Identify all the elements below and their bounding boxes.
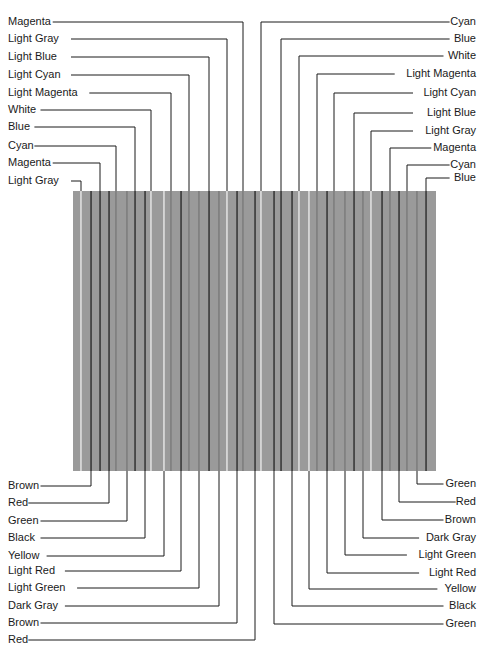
- stripe: [370, 191, 371, 471]
- stripe: [326, 191, 328, 471]
- stripe: [108, 191, 110, 471]
- stripe: [218, 191, 219, 471]
- stripe: [308, 191, 309, 471]
- stripe: [126, 191, 127, 471]
- label-cyan: Cyan: [8, 139, 34, 152]
- label-cyan: Cyan: [450, 158, 476, 171]
- leader-line: [382, 471, 444, 520]
- stripe: [180, 191, 182, 471]
- stripe: [134, 191, 136, 471]
- stripe: [260, 191, 261, 471]
- stripe: [90, 191, 92, 471]
- leader-line: [309, 471, 437, 589]
- stripe: [425, 191, 427, 471]
- leader-line: [334, 93, 413, 191]
- leader-line: [345, 471, 407, 555]
- leader-line: [417, 471, 444, 484]
- leader-line: [426, 178, 450, 191]
- label-green: Green: [445, 477, 476, 490]
- label-magenta: Magenta: [8, 156, 51, 169]
- label-red: Red: [8, 496, 28, 509]
- stripe: [144, 191, 146, 471]
- label-light-gray: Light Gray: [8, 32, 59, 45]
- leader-line: [47, 471, 164, 556]
- leader-line: [390, 148, 431, 191]
- label-green: Green: [8, 514, 39, 527]
- label-yellow: Yellow: [445, 582, 476, 595]
- stripe: [188, 191, 189, 471]
- label-light-magenta: Light Magenta: [8, 86, 78, 99]
- stripe: [280, 191, 282, 471]
- stripe: [208, 191, 210, 471]
- label-light-cyan: Light Cyan: [8, 68, 61, 81]
- stripe: [298, 191, 299, 471]
- stripe: [115, 191, 116, 471]
- label-black: Black: [8, 531, 35, 544]
- leader-line: [281, 39, 450, 191]
- stripe: [291, 191, 293, 471]
- label-red: Red: [8, 633, 28, 646]
- stripe: [242, 191, 243, 471]
- label-light-red: Light Red: [429, 566, 476, 579]
- label-light-gray: Light Gray: [425, 124, 476, 137]
- leader-line: [41, 471, 92, 486]
- label-dark-gray: Dark Gray: [8, 599, 58, 612]
- leader-line: [53, 163, 100, 191]
- label-brown: Brown: [8, 616, 39, 629]
- stripe: [362, 191, 363, 471]
- leader-line: [41, 471, 128, 521]
- label-white: White: [448, 49, 476, 62]
- label-blue: Blue: [454, 32, 476, 45]
- label-light-gray: Light Gray: [8, 174, 59, 187]
- leader-line: [317, 74, 395, 191]
- label-light-red: Light Red: [8, 564, 55, 577]
- stripe: [99, 191, 101, 471]
- leader-line: [354, 113, 413, 191]
- label-light-cyan: Light Cyan: [423, 86, 476, 99]
- leader-line: [41, 471, 238, 623]
- stripe: [381, 191, 383, 471]
- stripe: [353, 191, 355, 471]
- label-brown: Brown: [8, 479, 39, 492]
- stripe: [389, 191, 390, 471]
- stripe: [273, 191, 275, 471]
- label-green: Green: [445, 617, 476, 630]
- stripe: [80, 191, 81, 471]
- leader-line: [71, 181, 81, 191]
- stripe: [226, 191, 227, 471]
- leader-line: [71, 57, 209, 191]
- stripe: [236, 191, 238, 471]
- label-light-green: Light Green: [419, 548, 476, 561]
- stripe: [398, 191, 400, 471]
- leader-line: [89, 93, 171, 191]
- label-red: Red: [456, 495, 476, 508]
- label-magenta: Magenta: [433, 141, 476, 154]
- label-white: White: [8, 103, 36, 116]
- leader-line: [261, 22, 450, 191]
- label-magenta: Magenta: [8, 15, 51, 28]
- label-light-magenta: Light Magenta: [406, 67, 476, 80]
- leader-line: [41, 471, 146, 538]
- label-light-blue: Light Blue: [8, 50, 57, 63]
- stripe: [198, 191, 199, 471]
- label-yellow: Yellow: [8, 549, 39, 562]
- stripe: [333, 191, 334, 471]
- label-brown: Brown: [445, 513, 476, 526]
- stripe: [254, 191, 256, 471]
- leader-line: [363, 471, 419, 538]
- label-blue: Blue: [8, 120, 30, 133]
- stripe: [170, 191, 171, 471]
- label-black: Black: [449, 599, 476, 612]
- label-light-green: Light Green: [8, 581, 65, 594]
- stripe: [416, 191, 417, 471]
- stripe: [163, 191, 164, 471]
- leader-line: [53, 22, 243, 191]
- leader-line: [28, 471, 109, 503]
- label-dark-gray: Dark Gray: [426, 531, 476, 544]
- leader-line: [327, 471, 419, 573]
- stripe: [150, 191, 151, 471]
- label-blue: Blue: [454, 171, 476, 184]
- leader-line: [71, 39, 227, 191]
- label-light-blue: Light Blue: [427, 106, 476, 119]
- stripe: [316, 191, 317, 471]
